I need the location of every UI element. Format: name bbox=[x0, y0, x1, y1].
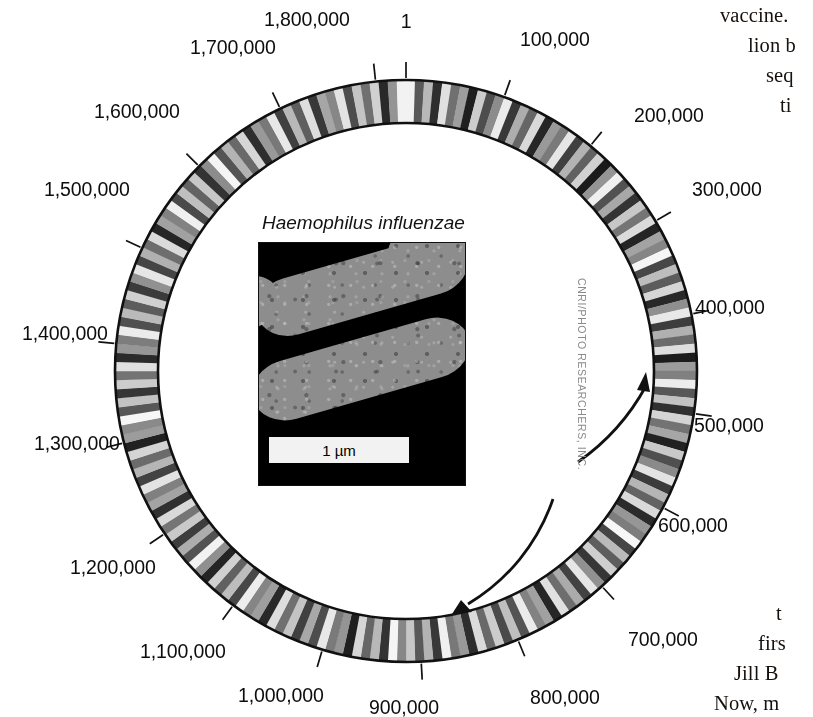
inset-caption: Haemophilus influenzae bbox=[262, 212, 465, 234]
tick-label: 100,000 bbox=[520, 28, 590, 51]
tick-label: 1,500,000 bbox=[44, 178, 130, 201]
body-text-fragment: firs bbox=[758, 632, 786, 655]
tick-label: 1,600,000 bbox=[94, 100, 180, 123]
body-text-fragment: ti bbox=[780, 94, 792, 117]
body-text-fragment: t bbox=[776, 602, 782, 625]
arrowhead-clockwise-icon bbox=[637, 372, 650, 392]
tick-label: 800,000 bbox=[530, 686, 600, 709]
tick-label: 900,000 bbox=[369, 696, 439, 717]
tick-label: 1,800,000 bbox=[264, 8, 350, 31]
inset-micrograph: 1 µm bbox=[258, 242, 466, 486]
photo-credit: CNRI/PHOTO RESEARCHERS, INC. bbox=[576, 278, 588, 470]
replication-direction-clockwise bbox=[578, 386, 646, 462]
body-text-fragment: lion b bbox=[748, 34, 796, 57]
genome-map-figure: 1100,000200,000300,000400,000500,000600,… bbox=[0, 0, 813, 717]
tick-label: 1,400,000 bbox=[22, 322, 108, 345]
tick-label: 600,000 bbox=[658, 514, 728, 537]
tick-label: 1,200,000 bbox=[70, 556, 156, 579]
tick-label: 200,000 bbox=[634, 104, 704, 127]
tick-label: 700,000 bbox=[628, 628, 698, 651]
tick-label: 1,700,000 bbox=[190, 36, 276, 59]
tick-label: 400,000 bbox=[695, 296, 765, 319]
tick-label: 1,000,000 bbox=[238, 684, 324, 707]
tick-label: 1,300,000 bbox=[34, 432, 120, 455]
body-text-fragment: vaccine. bbox=[720, 4, 789, 27]
body-text-fragment: Now, m bbox=[714, 692, 779, 715]
tick-label: 1 bbox=[401, 10, 412, 33]
tick-label: 500,000 bbox=[694, 414, 764, 437]
body-text-fragment: seq bbox=[766, 64, 794, 87]
tick-label: 300,000 bbox=[692, 178, 762, 201]
tick-label: 1,100,000 bbox=[140, 640, 226, 663]
scale-bar-label: 1 µm bbox=[322, 442, 356, 459]
body-text-fragment: Jill B bbox=[734, 662, 778, 685]
scale-bar: 1 µm bbox=[269, 437, 409, 463]
